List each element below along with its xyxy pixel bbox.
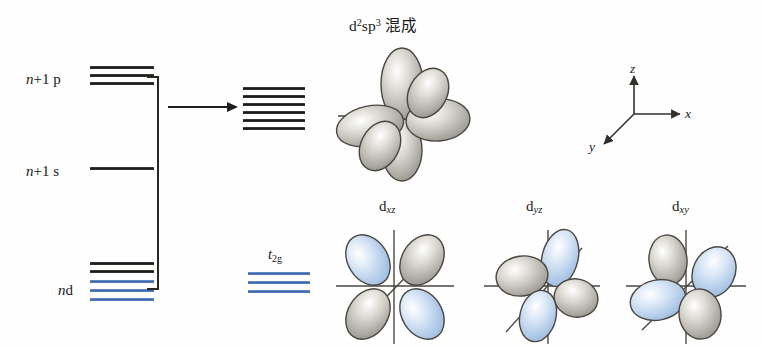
bracket-bottom-arm [147,288,159,290]
energy-level-line-d-blue-1 [90,280,154,283]
orbital-label-dyz: dyz [526,199,542,216]
hybrid-title-sp: sp [362,17,376,34]
hybrid-lobes [333,48,472,181]
energy-level-line-d-black-2 [90,270,154,273]
hybrid-title-exp-3: 3 [376,17,381,28]
energy-level-line-p-3 [90,82,154,85]
orbital-label-dxz-base: d [379,198,387,214]
orbital-diagram-d2sp3 [330,38,480,183]
axis-label-z: z [630,62,635,76]
dxz-lobe-lower-right [391,281,454,348]
level-label-n-plus-1-p: n+1 p [26,72,61,87]
orbital-label-dyz-sub: yz [534,204,543,215]
hybrid-level-line-4 [243,111,305,114]
bracket-spine [157,76,159,289]
hybrid-level-line-6 [243,127,305,130]
t2g-level-line-3 [248,290,310,293]
orbital-label-dxy-sub: xy [680,204,689,215]
level-label-nd: nd [58,283,73,298]
orbital-label-dxy: dxy [672,199,689,216]
orbital-diagram-dxz [332,228,457,346]
energy-level-line-p-2 [90,74,154,77]
orbital-label-dxy-base: d [672,198,680,214]
hybrid-level-line-3 [243,103,305,106]
hybrid-title-d: d [349,17,357,34]
level-label-n-plus-1-s: n+1 s [26,164,59,179]
hybridization-arrow-shaft [168,106,228,108]
level-label-nd-text: d [66,282,74,298]
energy-level-line-d-blue-3 [90,298,154,301]
hybrid-level-line-5 [243,119,305,122]
hybrid-level-line-2 [243,95,305,98]
dxy-lobe-upper-left [646,233,689,287]
axis-label-x: x [685,107,691,121]
dxz-lobe-lower-left [337,281,400,348]
axis-label-y: y [589,140,595,154]
figure-canvas: n+1 p n+1 s nd t2g d2sp3 混成 [0,0,762,348]
level-label-n-plus-1-s-text: +1 s [34,163,60,179]
t2g-level-line-1 [248,272,310,275]
orbital-label-dxz-sub: xz [387,204,396,215]
t2g-label-subscript: 2g [272,253,282,264]
hybrid-level-line-1 [243,87,305,90]
dxz-lobe-upper-left [337,227,400,294]
energy-level-line-s-1 [90,167,154,170]
axis-line-y [604,114,634,144]
hybrid-orbital-title: d2sp3 混成 [349,18,417,34]
t2g-label: t2g [268,247,282,264]
energy-level-line-p-1 [90,66,154,69]
orbital-diagram-dxy [622,228,750,346]
energy-level-line-d-black-1 [90,262,154,265]
hybridization-arrow-head [227,102,238,112]
orbital-label-dyz-base: d [526,198,534,214]
orbital-label-dxz: dxz [379,199,395,216]
energy-level-line-d-blue-2 [90,289,154,292]
level-label-n-plus-1-p-text: +1 p [34,71,61,87]
hybrid-title-suffix: 混成 [385,17,417,34]
t2g-level-line-2 [248,281,310,284]
orbital-diagram-dyz [478,228,603,346]
